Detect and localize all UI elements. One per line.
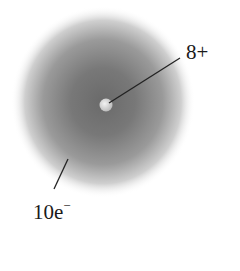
nucleus: [100, 99, 113, 112]
electron-count-text: 10e: [33, 200, 63, 224]
electron-charge-sign: −: [63, 198, 70, 213]
nucleus-charge-label: 8+: [186, 42, 208, 63]
ion-diagram: 8+ 10e−: [0, 0, 240, 271]
electron-count-label: 10e−: [33, 202, 71, 223]
nucleus-charge-text: 8+: [186, 40, 208, 64]
